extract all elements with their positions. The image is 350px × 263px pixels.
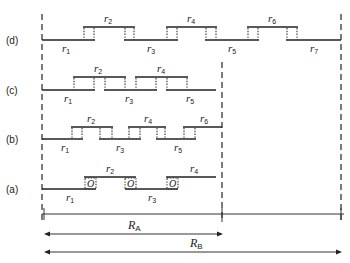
overlap-marker-1: O <box>85 178 96 189</box>
label-a-r3: r3 <box>148 191 156 204</box>
row-c: (c) r1 r2 r3 r4 r5 <box>6 62 216 105</box>
range-a-arrow: RA <box>44 218 223 237</box>
overlap-marker-3: O <box>167 178 178 189</box>
label-c-r3: r3 <box>125 92 133 105</box>
svg-text:O: O <box>127 178 134 189</box>
row-b: (b) r1 r2 r3 r4 r5 r6 <box>6 112 222 154</box>
range-a-label: RA <box>127 218 141 233</box>
label-b-r6: r6 <box>200 112 208 125</box>
label-d-r3: r3 <box>147 42 155 55</box>
label-b-r1: r1 <box>61 141 69 154</box>
label-b-r2: r2 <box>87 112 95 125</box>
overlap-marker-2: O <box>125 178 136 189</box>
label-c-r5: r5 <box>186 92 194 105</box>
label-d-r4: r4 <box>187 12 195 25</box>
label-a-r2: r2 <box>106 162 114 175</box>
label-b-r3: r3 <box>116 141 124 154</box>
range-b-label: RB <box>189 236 203 251</box>
row-label-d: (d) <box>6 35 18 46</box>
label-d-r7: r7 <box>310 42 318 55</box>
label-b-r4: r4 <box>144 112 152 125</box>
svg-text:O: O <box>169 178 176 189</box>
label-a-r1: r1 <box>66 191 74 204</box>
label-a-r4: r4 <box>190 162 198 175</box>
label-b-r5: r5 <box>174 141 182 154</box>
label-c-r4: r4 <box>157 62 165 75</box>
row-label-b: (b) <box>6 134 18 145</box>
svg-text:O: O <box>87 178 94 189</box>
label-d-r2: r2 <box>104 12 112 25</box>
label-c-r1: r1 <box>64 92 72 105</box>
label-c-r2: r2 <box>94 62 102 75</box>
range-b-arrow: RB <box>44 236 342 255</box>
read-overlap-diagram: (d) r1 r2 r3 r4 r5 r6 r7 (c) <box>0 0 350 263</box>
row-d: (d) r1 r2 r3 r4 r5 r6 r7 <box>6 12 341 55</box>
label-d-r5: r5 <box>228 42 236 55</box>
row-label-c: (c) <box>6 85 18 96</box>
row-label-a: (a) <box>6 184 18 195</box>
row-a: (a) O O O r1 r2 r3 r4 <box>6 162 216 204</box>
label-d-r1: r1 <box>62 42 70 55</box>
label-d-r6: r6 <box>268 12 276 25</box>
range-axis <box>42 208 344 222</box>
